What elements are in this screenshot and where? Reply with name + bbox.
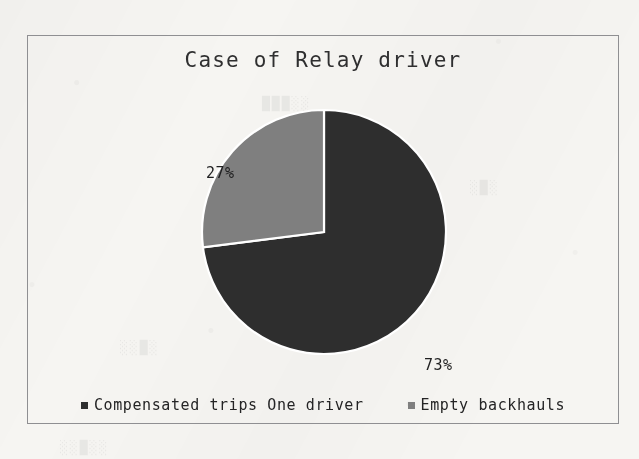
- pie-label-compensated-trips-one-driver: 73%: [424, 356, 453, 374]
- chart-frame: Case of Relay driver 27% 73% Compensated…: [27, 35, 619, 424]
- pie-chart: [196, 104, 452, 360]
- pie-svg: [196, 104, 452, 360]
- legend-item-label: Empty backhauls: [421, 396, 565, 414]
- legend-item-compensated-trips-one-driver[interactable]: Compensated trips One driver: [81, 396, 364, 414]
- legend-swatch-icon: [408, 402, 415, 409]
- chart-legend: Compensated trips One driver Empty backh…: [28, 396, 618, 414]
- legend-swatch-icon: [81, 402, 88, 409]
- scanned-page: ███░░ ░░█░ ░█░ ░░█░░ Case of Relay drive…: [0, 0, 639, 459]
- chart-title: Case of Relay driver: [28, 48, 618, 72]
- ghost-bleed-text: ░░█░░: [60, 440, 109, 455]
- pie-label-empty-backhauls: 27%: [206, 164, 235, 182]
- legend-item-label: Compensated trips One driver: [94, 396, 364, 414]
- legend-item-empty-backhauls[interactable]: Empty backhauls: [408, 396, 565, 414]
